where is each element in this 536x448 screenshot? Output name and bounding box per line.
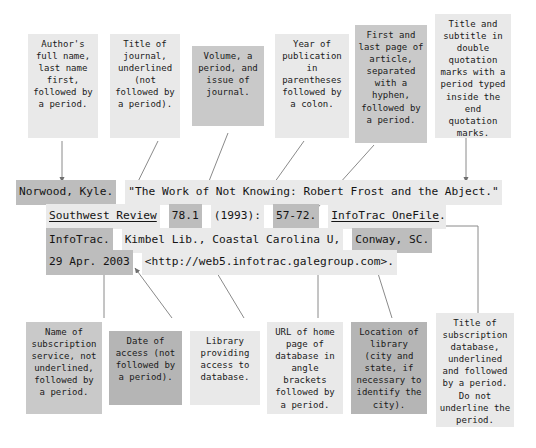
citation-line-1: Norwood, Kyle."The Work of Not Knowing: … <box>16 180 502 205</box>
callout-database-title: Title of subscription database, underlin… <box>436 313 514 427</box>
callout-library: Library providing access to database. <box>190 331 260 405</box>
callout-page-range: First and last page of article, separate… <box>355 25 427 143</box>
citation-line-2: Southwest Review78.1(1993):57-72.InfoTra… <box>46 204 446 229</box>
citation-article-title: "The Work of Not Knowing: Robert Frost a… <box>125 180 501 205</box>
callout-subscription-service: Name of subscription service, not underl… <box>26 322 102 414</box>
citation-database-name: InfoTrac OneFile <box>331 209 439 222</box>
callout-library-location: Location of library (city and state, if … <box>351 322 427 414</box>
citation-journal-title: Southwest Review <box>46 204 160 229</box>
citation-database-period: . <box>439 209 446 222</box>
citation-database-url: <http://web5.infotrac.galegroup.com>. <box>142 250 397 275</box>
callout-access-date: Date of access (not followed by a period… <box>109 331 182 405</box>
callout-database-url: URL of home page of database in angle br… <box>267 322 343 414</box>
callout-journal-title: Title of journal, underlined (not follow… <box>110 34 180 138</box>
citation-page-range: 57-72. <box>273 204 319 229</box>
callout-volume-issue: Volume, a period, and issue of journal. <box>192 46 264 126</box>
citation-line-4: 29 Apr. 2003<http://web5.infotrac.galegr… <box>46 250 397 275</box>
callout-article-title: Title and subtitle in double quotation m… <box>435 14 511 138</box>
citation-access-date: 29 Apr. 2003 <box>46 250 133 275</box>
citation-author-name: Norwood, Kyle. <box>16 180 116 205</box>
callout-author: Author's full name, last name first, fol… <box>28 34 98 138</box>
callout-year: Year of publication in parentheses follo… <box>275 34 349 138</box>
citation-example: Norwood, Kyle."The Work of Not Knowing: … <box>0 180 536 275</box>
citation-volume-issue: 78.1 <box>169 204 202 229</box>
citation-year: (1993): <box>211 204 264 229</box>
citation-annotation-diagram: Author's full name, last name first, fol… <box>0 0 536 448</box>
